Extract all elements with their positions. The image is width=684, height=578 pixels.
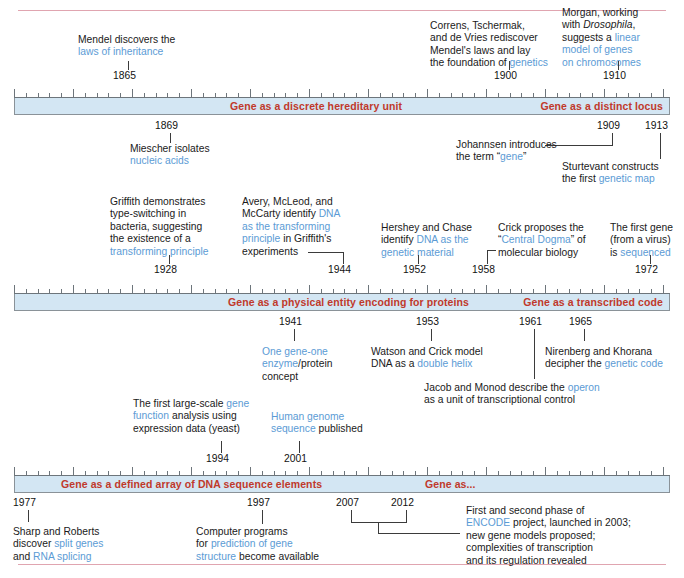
band-1-ticks <box>14 89 670 98</box>
ruler-tick <box>144 93 145 97</box>
stem-1972 <box>650 255 651 264</box>
event-1952: Hershey and Chase identify DNA as the ge… <box>381 222 472 259</box>
ruler-tick <box>238 289 239 293</box>
ruler-tick <box>226 471 227 475</box>
ruler-tick <box>321 289 322 293</box>
year-1952: 1952 <box>403 264 426 275</box>
ruler-tick <box>132 89 133 97</box>
event-1909: Johannsen introduces the term “gene” <box>456 139 557 164</box>
stem-1952 <box>418 255 419 264</box>
ruler-tick <box>297 289 298 293</box>
ruler-tick <box>333 289 334 293</box>
event-1928-line-2: type-switching in <box>110 208 208 220</box>
event-encode-line-4: complexities of transcription <box>466 542 631 554</box>
event-1944-line-1: Avery, McLeod, and <box>242 196 340 208</box>
bracket-lead-to-text <box>378 533 460 534</box>
era-label-defined-array: Gene as a defined array of DNA sequence … <box>61 476 322 493</box>
event-1944-line-2: McCarty identify DNA <box>242 208 340 220</box>
year-1997: 1997 <box>247 497 270 508</box>
event-2001: Human genome sequence published <box>271 411 363 436</box>
ruler-tick <box>521 289 522 293</box>
ruler-tick <box>533 93 534 97</box>
year-2001: 2001 <box>284 453 307 464</box>
ruler-tick <box>344 93 345 97</box>
event-1997-line-2: for prediction of gene <box>196 538 319 550</box>
ruler-tick <box>451 471 452 475</box>
ruler-tick <box>663 285 664 293</box>
ruler-tick <box>344 471 345 475</box>
ruler-tick <box>380 471 381 475</box>
ruler-tick <box>226 93 227 97</box>
event-1944-line-4: principle in Griffith's <box>242 233 340 245</box>
ruler-tick <box>533 471 534 475</box>
ruler-tick <box>120 289 121 293</box>
event-1994-line-3: expression data (yeast) <box>133 423 249 435</box>
stem-1944-connector-v <box>343 252 344 264</box>
event-encode-line-5: and its regulation revealed <box>466 555 631 567</box>
ruler-tick <box>191 467 192 475</box>
ruler-tick <box>403 93 404 97</box>
ruler-tick <box>167 471 168 475</box>
ruler-tick <box>663 89 664 97</box>
stem-1900 <box>509 61 510 70</box>
ruler-tick <box>262 289 263 293</box>
era-label-gene-as: Gene as... <box>425 476 476 493</box>
ruler-tick <box>144 289 145 293</box>
ruler-tick <box>557 289 558 293</box>
ruler-tick <box>203 289 204 293</box>
event-1994-line-1: The first large-scale gene <box>133 398 249 410</box>
ruler-tick <box>392 289 393 293</box>
ruler-tick <box>215 471 216 475</box>
ruler-tick <box>451 289 452 293</box>
event-1958-line-1: Crick proposes the <box>498 222 586 234</box>
ruler-tick <box>297 471 298 475</box>
ruler-tick <box>73 467 74 475</box>
ruler-tick <box>628 93 629 97</box>
event-1961: Jacob and Monod describe the operon as a… <box>424 382 600 407</box>
ruler-tick <box>73 285 74 293</box>
event-1997-line-1: Computer programs <box>196 526 319 538</box>
stem-1909-connector-v <box>612 133 613 145</box>
ruler-tick <box>250 467 251 475</box>
ruler-tick <box>545 89 546 97</box>
ruler-tick <box>439 93 440 97</box>
event-1997-line-3: structure become available <box>196 551 319 563</box>
event-2001-line-1: Human genome <box>271 411 363 423</box>
event-encode-line-2: ENCODE project, launched in 2003; <box>466 517 631 529</box>
ruler-tick <box>344 289 345 293</box>
event-1977-line-1: Sharp and Roberts <box>13 526 103 538</box>
era-label-distinct-locus: Gene as a distinct locus <box>540 98 663 115</box>
ruler-tick <box>85 289 86 293</box>
stem-1977 <box>28 510 29 522</box>
ruler-tick <box>238 93 239 97</box>
ruler-tick <box>297 93 298 97</box>
year-1865: 1865 <box>113 70 136 81</box>
ruler-tick <box>521 93 522 97</box>
event-1994: The first large-scale gene function anal… <box>133 398 249 435</box>
ruler-tick <box>156 289 157 293</box>
timeline-figure: Mendel discovers the laws of inheritance… <box>0 0 684 578</box>
event-1965: Nirenberg and Khorana decipher the genet… <box>545 346 663 371</box>
stem-1961 <box>534 329 535 379</box>
ruler-tick <box>274 471 275 475</box>
ruler-tick <box>262 93 263 97</box>
ruler-tick <box>639 471 640 475</box>
stem-1953 <box>431 329 432 341</box>
ruler-tick <box>427 467 428 475</box>
event-1913-line-2: the first genetic map <box>562 173 659 185</box>
event-encode: First and second phase of ENCODE project… <box>466 505 631 567</box>
ruler-tick <box>392 471 393 475</box>
ruler-tick <box>97 471 98 475</box>
event-1869: Miescher isolates nucleic acids <box>130 143 210 168</box>
stem-1958-connector-h <box>487 250 496 251</box>
ruler-tick <box>156 93 157 97</box>
stem-1913 <box>660 133 661 159</box>
ruler-tick <box>14 285 15 293</box>
ruler-tick <box>521 471 522 475</box>
ruler-tick <box>368 285 369 293</box>
ruler-tick <box>167 93 168 97</box>
event-1900-line-2: and de Vries rediscover <box>430 32 548 44</box>
event-1958: Crick proposes the “Central Dogma” of mo… <box>498 222 586 259</box>
event-1869-line-1: Miescher isolates <box>130 143 210 155</box>
year-1910: 1910 <box>603 70 626 81</box>
